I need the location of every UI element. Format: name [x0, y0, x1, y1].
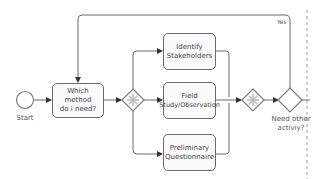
task-identify-line1: Identify	[167, 43, 213, 52]
task-which-method-line2: do i need?	[55, 105, 101, 114]
flow-split-to-identify	[133, 51, 162, 89]
parallel-join-gateway[interactable]	[242, 89, 264, 111]
task-identify-line2: Stakeholders	[167, 52, 213, 61]
task-questionnaire-line1: Preliminary	[165, 144, 214, 153]
exclusive-decision-gateway[interactable]	[278, 88, 302, 112]
parallel-split-gateway[interactable]	[122, 89, 144, 111]
flow-questionnaire-to-join	[216, 103, 229, 154]
decision-label-line1: Need other	[270, 115, 312, 124]
task-questionnaire-line2: Questionnaire	[165, 153, 214, 162]
task-field-study[interactable]: Field Study/Observation	[163, 82, 216, 119]
task-which-method[interactable]: Which method do i need?	[52, 83, 104, 118]
flow-split-to-questionnaire	[133, 111, 162, 154]
task-preliminary-questionnaire[interactable]: Preliminary Questionnaire	[163, 134, 216, 171]
bpmn-diagram: Start Which method do i need? Identify S…	[0, 0, 327, 179]
task-field-line1: Field	[159, 92, 220, 101]
decision-label-line2: activiy?	[270, 124, 312, 133]
task-identify-stakeholders[interactable]: Identify Stakeholders	[163, 33, 216, 70]
start-event-circle[interactable]	[17, 92, 34, 109]
flow-identify-to-join	[216, 51, 229, 97]
task-which-method-line1: Which method	[55, 87, 101, 105]
decision-label: Need other activiy?	[270, 115, 312, 133]
yes-flow-label: Yes	[277, 18, 287, 25]
task-field-line2: Study/Observation	[159, 101, 220, 110]
start-label: Start	[12, 114, 38, 123]
